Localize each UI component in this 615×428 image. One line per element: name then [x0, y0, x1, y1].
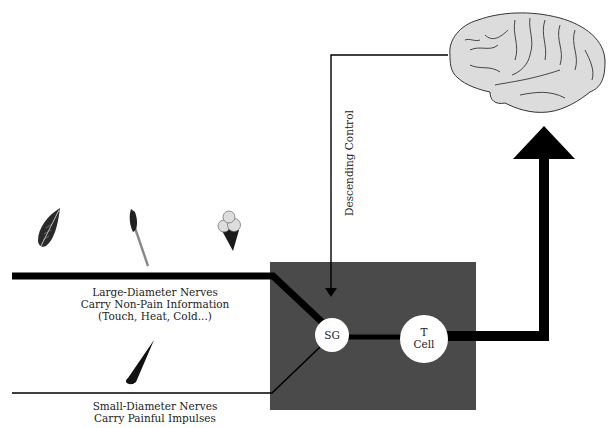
large-nerves-label: Large-Diameter Nerves Carry Non-Pain Inf… [40, 286, 270, 322]
large-nerves-line3: (Touch, Heat, Cold...) [40, 310, 270, 322]
brain-icon [450, 13, 605, 112]
tack-icon [126, 340, 154, 384]
match-icon [130, 209, 148, 266]
ice-cream-icon [218, 211, 241, 251]
t-cell-line2: Cell [400, 338, 448, 350]
small-nerves-label: Small-Diameter Nerves Carry Painful Impu… [40, 400, 270, 424]
leaf-icon [38, 208, 60, 250]
large-nerves-line1: Large-Diameter Nerves [40, 286, 270, 298]
sg-label: SG [315, 329, 349, 341]
large-nerves-line2: Carry Non-Pain Information [40, 298, 270, 310]
arrow-up-icon [513, 126, 575, 159]
t-cell-line1: T [400, 326, 448, 338]
t-cell-label: T Cell [400, 326, 448, 350]
gate-control-diagram [0, 0, 615, 428]
small-nerves-line1: Small-Diameter Nerves [40, 400, 270, 412]
descending-control-label: Descending Control [343, 110, 355, 216]
small-nerves-line2: Carry Painful Impulses [40, 412, 270, 424]
